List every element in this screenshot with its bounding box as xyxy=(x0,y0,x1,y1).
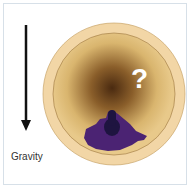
gravity-arrow xyxy=(21,25,31,131)
question-mark: ? xyxy=(131,63,148,95)
sediment-core-stalk xyxy=(108,110,116,126)
gravity-cell-diagram xyxy=(0,0,194,194)
gravity-label: Gravity xyxy=(11,151,43,162)
